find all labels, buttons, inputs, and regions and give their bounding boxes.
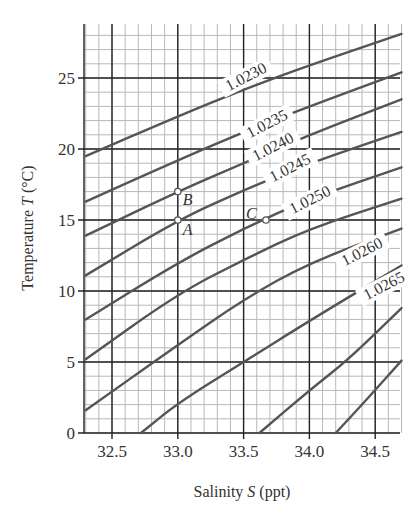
y-tick-label: 20 [58,140,75,159]
curve-label: 1.0265 [360,268,407,303]
curve-labels: 1.02301.02351.02401.02451.02501.02601.02… [217,56,413,306]
point-A [175,217,181,223]
x-tick-label: 34.5 [360,442,390,461]
x-tick-label: 34.0 [295,442,325,461]
density-curve-1.0270 [259,308,401,433]
x-tick-label: 33.5 [229,442,259,461]
point-label-C: C [246,205,257,222]
x-tick-label: 33.0 [163,442,193,461]
y-axis-label: Temperature T (°C) [19,165,37,290]
y-tick-label: 0 [67,424,76,443]
x-tick-label: 32.5 [97,442,127,461]
annotation-points: ABC [175,188,270,238]
x-axis-label: Salinity S (ppt) [194,483,291,501]
y-tick-label: 25 [58,69,75,88]
point-label-B: B [183,191,193,208]
density-chart: 1.02301.02351.02401.02451.02501.02601.02… [0,0,416,506]
y-tick-label: 5 [67,353,76,372]
y-tick-label: 10 [58,282,75,301]
point-label-A: A [182,221,193,238]
point-C [263,217,269,223]
density-curve-1.0275 [336,361,402,433]
point-B [175,188,181,194]
y-tick-label: 15 [58,211,75,230]
